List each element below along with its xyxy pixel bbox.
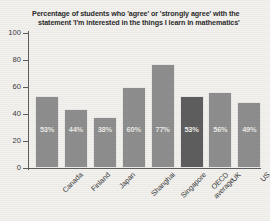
bar-chart: Percentage of students who 'agree' or 's… (0, 0, 270, 221)
x-axis-category-line: Japan (117, 171, 137, 191)
y-axis-tick-label: 60 (0, 83, 21, 91)
bar-us (237, 102, 261, 168)
x-axis-category-label: Japan (117, 171, 137, 191)
bar-slot: 60% (122, 33, 146, 168)
x-axis-category-label: Singapore (179, 171, 208, 200)
x-axis-category-line: Shanghai (149, 171, 176, 198)
y-axis-tick-label: 20 (0, 137, 21, 145)
bar-value-label: 56% (208, 125, 232, 134)
y-axis-tick-mark (23, 168, 28, 169)
bar-slot: 53% (180, 33, 204, 168)
bar-value-label: 53% (180, 125, 204, 134)
x-axis-category-line: US (259, 171, 270, 184)
bar-slot: 53% (35, 33, 59, 168)
bar-slot: 77% (151, 33, 175, 168)
bar-slot: 49% (237, 33, 261, 168)
chart-title: Percentage of students who 'agree' or 's… (32, 9, 264, 28)
bar-slot: 38% (93, 33, 117, 168)
y-axis-tick-label: 0 (0, 164, 21, 172)
x-axis-category-line: Singapore (179, 171, 208, 200)
x-axis-category-label: Finland (90, 171, 112, 193)
bar-value-label: 38% (93, 125, 117, 134)
chart-title-line-1: Percentage of students who 'agree' or 's… (32, 9, 264, 18)
bar-value-label: 60% (122, 125, 146, 134)
x-axis-category-label: US (259, 171, 270, 184)
bar-value-label: 44% (64, 125, 88, 134)
bar-value-label: 77% (151, 125, 175, 134)
bar-singapore (151, 64, 175, 168)
x-axis-category-label: Shanghai (149, 171, 176, 198)
x-axis-category-line: Finland (90, 171, 112, 193)
y-axis-tick-label: 40 (0, 110, 21, 118)
bar-slot: 56% (208, 33, 232, 168)
bar-slot: 44% (64, 33, 88, 168)
bar-finland (64, 109, 88, 168)
plot-area: 53%44%38%60%77%53%56%49% (28, 33, 260, 168)
chart-title-line-2: statement 'I'm interested in the things … (32, 18, 264, 27)
x-axis-category-line: Canada (61, 171, 84, 194)
bar-value-label: 49% (237, 125, 261, 134)
y-axis-tick-label: 80 (0, 56, 21, 64)
y-axis-tick-label: 100 (0, 29, 21, 37)
x-axis-category-label: Canada (61, 171, 84, 194)
bar-value-label: 53% (35, 125, 59, 134)
